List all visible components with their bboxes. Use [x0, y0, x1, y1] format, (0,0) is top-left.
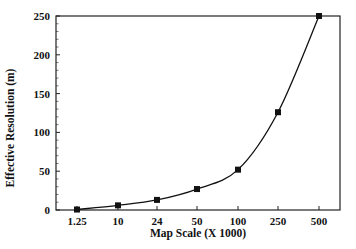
data-point-marker — [235, 167, 241, 173]
data-series — [74, 13, 322, 213]
data-point-marker — [316, 13, 322, 19]
x-tick-label: 500 — [311, 215, 328, 227]
x-tick-label: 50 — [192, 215, 204, 227]
x-axis-label: Map Scale (X 1000) — [150, 227, 246, 240]
x-tick-label: 10 — [113, 215, 125, 227]
data-point-marker — [154, 197, 160, 203]
y-tick-label: 50 — [39, 165, 51, 177]
data-point-marker — [74, 207, 80, 213]
y-axis-label: Effective Resolution (m) — [4, 68, 17, 187]
series-line — [77, 16, 319, 210]
x-tick-label: 24 — [152, 215, 164, 227]
x-tick-label: 250 — [270, 215, 287, 227]
y-tick-label: 150 — [34, 88, 51, 100]
y-tick-label: 100 — [34, 126, 51, 138]
chart: 050100150200250 1.25102450100250500 Map … — [0, 0, 356, 249]
y-tick-label: 200 — [34, 49, 51, 61]
y-tick-label: 250 — [34, 10, 51, 22]
x-tick-label: 100 — [230, 215, 247, 227]
plot-border — [56, 16, 340, 210]
data-point-marker — [194, 186, 200, 192]
x-tick-label: 1.25 — [67, 215, 87, 227]
y-tick-label: 0 — [45, 204, 51, 216]
data-point-marker — [275, 109, 281, 115]
data-point-marker — [115, 202, 121, 208]
x-axis-ticks: 1.25102450100250500 — [67, 206, 327, 227]
plot-frame — [56, 16, 340, 210]
